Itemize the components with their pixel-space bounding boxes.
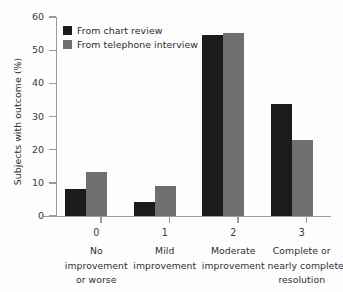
x-axis-category-description-line: nearly complete xyxy=(268,259,337,274)
x-axis-category-description: Complete ornearly completeresolution xyxy=(268,244,337,288)
bar-from-chart-review-2 xyxy=(202,35,223,216)
x-axis-tick xyxy=(100,217,101,223)
bar-from-chart-review-0 xyxy=(65,189,86,216)
x-axis-category-description-line: Complete or xyxy=(268,244,337,259)
x-axis-category-code: 3 xyxy=(268,226,337,240)
legend-item-0: From chart review xyxy=(63,24,198,37)
legend-swatch-icon xyxy=(63,40,72,49)
y-axis-tick xyxy=(49,50,56,51)
x-axis-category-description-line: improvement xyxy=(131,259,200,274)
x-axis-category-description-line: or worse xyxy=(62,273,131,288)
x-axis-category-description-line: resolution xyxy=(268,273,337,288)
y-axis-tick-label: 10 xyxy=(10,177,44,188)
y-axis-tick xyxy=(49,16,56,17)
x-axis-category-description-line: improvement xyxy=(62,259,131,274)
legend-label: From chart review xyxy=(77,25,162,36)
y-axis-tick-label: 40 xyxy=(10,77,44,88)
bar-from-telephone-interview-3 xyxy=(292,140,313,216)
x-axis-category-code: 0 xyxy=(62,226,131,240)
x-axis-tick xyxy=(169,217,170,223)
y-axis-tick xyxy=(49,149,56,150)
x-axis-category-2: 2Moderateimprovement xyxy=(199,226,268,273)
x-axis-category-description: Moderateimprovement xyxy=(199,244,268,273)
x-axis-category-0: 0Noimprovementor worse xyxy=(62,226,131,288)
y-axis-tick xyxy=(49,215,56,216)
x-axis-category-description-line: No xyxy=(62,244,131,259)
x-axis-category-code: 2 xyxy=(199,226,268,240)
y-axis-tick xyxy=(49,116,56,117)
legend-item-1: From telephone interview xyxy=(63,38,198,51)
x-axis-tick xyxy=(306,217,307,223)
legend-label: From telephone interview xyxy=(77,39,198,50)
x-axis-category-description: Noimprovementor worse xyxy=(62,244,131,288)
y-axis-tick-label: 50 xyxy=(10,44,44,55)
y-axis-tick-label: 60 xyxy=(10,11,44,22)
x-axis-category-3: 3Complete ornearly completeresolution xyxy=(268,226,337,288)
x-axis-category-1: 1Mildimprovement xyxy=(131,226,200,273)
x-axis-category-description-line: Mild xyxy=(131,244,200,259)
x-axis-category-description-line: Moderate xyxy=(199,244,268,259)
x-axis-category-description: Mildimprovement xyxy=(131,244,200,273)
x-axis-category-code: 1 xyxy=(131,226,200,240)
x-axis-line xyxy=(43,216,331,217)
y-axis-tick-label: 20 xyxy=(10,144,44,155)
bar-from-telephone-interview-1 xyxy=(155,186,176,216)
y-axis-tick-label: 30 xyxy=(10,111,44,122)
legend-swatch-icon xyxy=(63,26,72,35)
bar-from-chart-review-3 xyxy=(271,104,292,216)
bar-from-chart-review-1 xyxy=(134,202,155,216)
x-axis-tick xyxy=(237,217,238,223)
bar-chart: Subjects with outcome (%) 0102030405060 … xyxy=(0,0,343,292)
x-axis-category-description-line: improvement xyxy=(199,259,268,274)
bar-from-telephone-interview-0 xyxy=(86,172,107,216)
y-axis-tick xyxy=(49,83,56,84)
y-axis-tick xyxy=(49,182,56,183)
y-axis-tick-label: 0 xyxy=(10,210,44,221)
chart-legend: From chart reviewFrom telephone intervie… xyxy=(63,24,198,52)
bar-from-telephone-interview-2 xyxy=(223,33,244,216)
